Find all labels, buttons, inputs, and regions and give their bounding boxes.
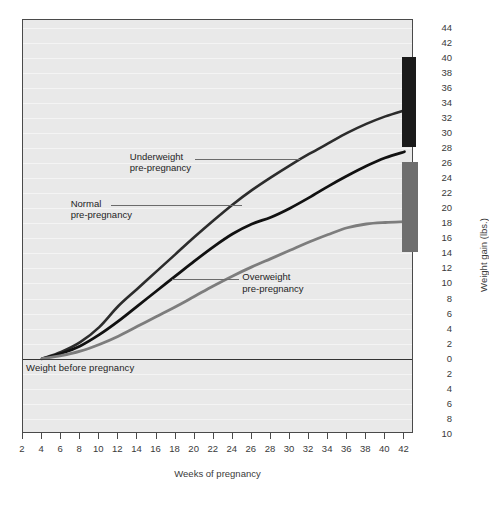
x-tick-mark [232,433,233,439]
x-tick-label: 20 [188,443,199,454]
x-tick-mark [22,433,23,439]
annotation-normal: Normal pre-pregnancy [71,198,132,221]
annotation-underweight-line1: Underweight [130,151,191,163]
x-tick-label: 2 [19,443,24,454]
x-tick-label: 12 [112,443,123,454]
leader-line-overweight [172,279,239,280]
y-tick-label: 38 [424,66,452,77]
x-tick-label: 28 [265,443,276,454]
y-tick-label: 44 [424,21,452,32]
x-tick-mark [270,433,271,439]
y-tick-label: 4 [424,322,452,333]
x-tick-label: 16 [150,443,161,454]
x-tick-mark [60,433,61,439]
baseline-label: Weight before pregnancy [26,362,134,374]
x-tick-label: 6 [57,443,62,454]
series-line-overweight [42,222,404,359]
x-tick-label: 34 [322,443,333,454]
y-axis-title: Weight gain (lbs.) [478,218,489,292]
x-tick-label: 10 [93,443,104,454]
x-tick-mark [41,433,42,439]
x-tick-label: 18 [169,443,180,454]
y-tick-label: 26 [424,157,452,168]
y-tick-label: 20 [424,202,452,213]
leader-line-underweight [195,159,300,160]
annotation-overweight-line1: Overweight [242,271,303,283]
x-tick-label: 8 [77,443,82,454]
y-tick-label: 4 [424,382,452,393]
y-tick-label: 6 [424,307,452,318]
y-tick-label: 22 [424,187,452,198]
leader-line-normal [111,205,243,206]
x-tick-label: 4 [38,443,43,454]
x-tick-label: 26 [246,443,257,454]
y-tick-label: 10 [424,277,452,288]
x-tick-label: 32 [303,443,314,454]
y-tick-label: 40 [424,51,452,62]
y-tick-label: 16 [424,232,452,243]
y-tick-label: 34 [424,96,452,107]
x-tick-mark [346,433,347,439]
series-line-normal [42,152,404,359]
y-tick-label: 2 [424,367,452,378]
y-tick-label: 2 [424,337,452,348]
x-tick-label: 24 [227,443,238,454]
annotation-overweight: Overweight pre-pregnancy [242,271,303,294]
x-tick-mark [117,433,118,439]
plot-area: Weight before pregnancy Underweight pre-… [22,19,413,433]
y-tick-label: 6 [424,397,452,408]
y-tick-label: 28 [424,141,452,152]
x-tick-mark [308,433,309,439]
x-tick-label: 22 [207,443,218,454]
annotation-normal-line1: Normal [71,198,132,210]
annotation-overweight-line2: pre-pregnancy [242,283,303,295]
annotation-underweight-line2: pre-pregnancy [130,162,191,174]
x-tick-mark [289,433,290,439]
x-tick-label: 36 [341,443,352,454]
y-tick-label: 12 [424,262,452,273]
x-tick-label: 42 [398,443,409,454]
y-tick-label: 8 [424,292,452,303]
x-tick-label: 30 [284,443,295,454]
x-tick-mark [251,433,252,439]
y-tick-label: 42 [424,36,452,47]
x-tick-label: 40 [379,443,390,454]
y-tick-label: 32 [424,111,452,122]
x-tick-mark [98,433,99,439]
x-axis: Weeks of pregnancy 246810121416182022242… [0,433,482,493]
x-tick-mark [384,433,385,439]
y-tick-label: 18 [424,217,452,228]
x-tick-label: 14 [131,443,142,454]
x-tick-mark [136,433,137,439]
x-tick-mark [175,433,176,439]
y-tick-label: 8 [424,412,452,423]
annotation-normal-line2: pre-pregnancy [71,209,132,221]
x-tick-label: 38 [360,443,371,454]
x-axis-title: Weeks of pregnancy [0,468,435,479]
x-tick-mark [403,433,404,439]
x-tick-mark [213,433,214,439]
zero-baseline [23,359,412,360]
y-tick-label: 24 [424,172,452,183]
x-tick-mark [365,433,366,439]
x-tick-mark [327,433,328,439]
x-tick-mark [194,433,195,439]
y-tick-label: 0 [424,352,452,363]
x-tick-mark [156,433,157,439]
annotation-underweight: Underweight pre-pregnancy [130,151,191,174]
series-line-underweight [42,110,404,358]
x-tick-mark [79,433,80,439]
y-tick-label: 30 [424,126,452,137]
y-tick-label: 14 [424,247,452,258]
y-tick-label: 36 [424,81,452,92]
